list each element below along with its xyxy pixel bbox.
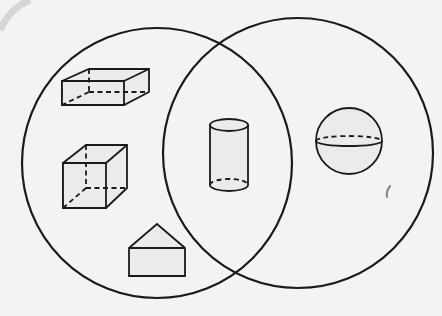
scan-artifact [0, 0, 30, 30]
sphere-shape [316, 108, 382, 174]
venn-canvas [0, 0, 442, 316]
rectangular-prism-shape [62, 69, 149, 105]
venn-diagram: rectangular prism cube triangular prism … [0, 0, 442, 316]
triangular-prism-shape [129, 224, 185, 276]
stray-mark [387, 186, 390, 197]
cube-shape [63, 145, 127, 208]
cylinder-shape [210, 119, 248, 191]
venn-circle-right [163, 18, 433, 288]
